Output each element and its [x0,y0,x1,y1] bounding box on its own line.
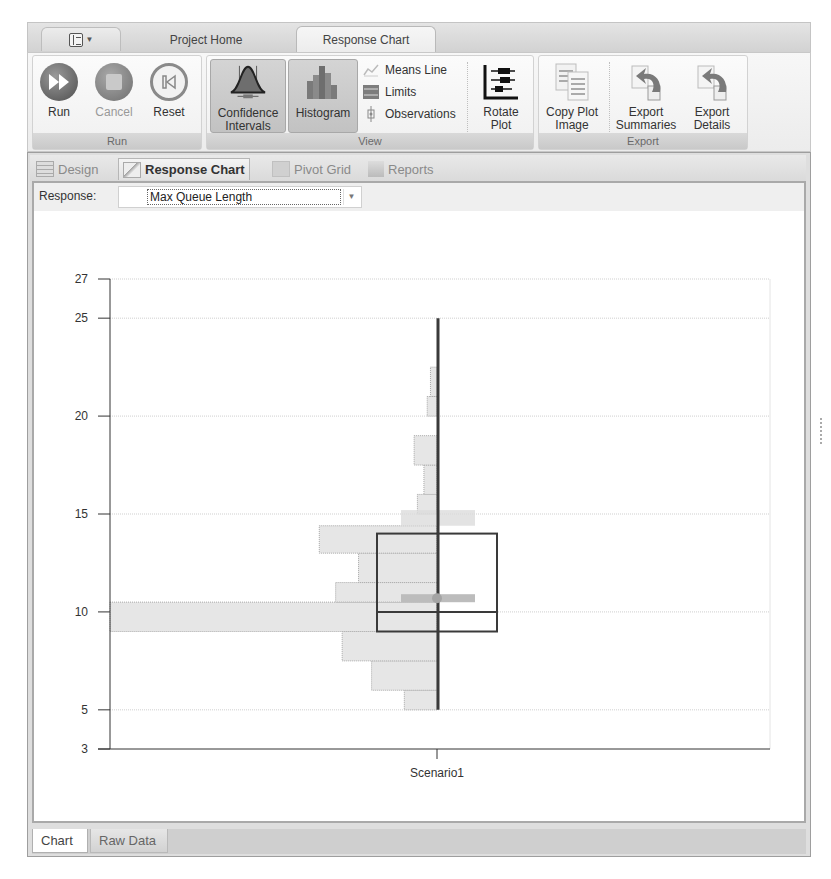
resize-grip[interactable] [820,418,823,444]
run-button[interactable]: Run [37,59,81,133]
chart-panel: Response: Max Queue Length ▼ 35101520252… [32,181,806,823]
histogram-bar [430,367,437,396]
chart-icon [123,162,141,178]
response-dropdown[interactable]: Max Queue Length ▼ [118,186,362,208]
tab-response-chart-label: Response Chart [145,162,245,177]
tab-design-label: Design [58,162,98,177]
limits-icon [363,84,379,100]
x-tick-label: Scenario1 [410,766,464,780]
response-label: Response: [39,189,96,203]
view-group-label: View [207,133,533,149]
tab-pivot-grid[interactable]: Pivot Grid [268,158,355,180]
app-window: ▼ Project Home Response Chart Run Cancel [27,22,811,857]
export-summaries-button[interactable]: Export Summaries [613,59,679,133]
separator [467,62,468,132]
chevron-down-icon: ▼ [86,35,94,44]
bottom-tabs: Chart Raw Data [32,829,806,854]
export-group-label: Export [539,133,747,149]
limits-button[interactable]: Limits [363,82,416,102]
histogram-bar [372,661,437,690]
app-menu-icon [69,33,83,47]
y-tick-label: 20 [75,409,89,423]
reset-label: Reset [153,106,184,119]
means-line-label: Means Line [385,63,447,77]
details-label: Details [694,119,731,132]
tab-project-home[interactable]: Project Home [146,27,266,53]
document-area: Design Response Chart Pivot Grid Reports… [27,152,811,857]
reports-icon [368,161,384,177]
tab-response-chart-doc[interactable]: Response Chart [118,158,250,180]
y-tick-label: 15 [75,507,89,521]
observations-button[interactable]: Observations [363,104,456,124]
reset-button[interactable]: Reset [145,59,193,133]
histogram-bar [404,690,437,710]
image-label: Image [555,119,588,132]
export-summaries-icon [626,62,666,102]
tab-reports-label: Reports [388,162,434,177]
histogram-bar [342,632,437,661]
bell-curve-icon [228,63,268,103]
run-group: Run Cancel Reset Run [32,55,202,150]
run-group-label: Run [33,133,201,149]
tab-design[interactable]: Design [32,158,102,180]
reset-icon [150,63,188,101]
confidence-intervals-button[interactable]: Confidence Intervals [210,59,286,133]
histogram-bar [424,465,437,494]
ribbon: Run Cancel Reset Run [27,52,811,152]
document-tabs: Design Response Chart Pivot Grid Reports [30,155,806,181]
design-icon [36,161,54,177]
limits-label: Limits [385,85,416,99]
histogram-bar [427,397,437,417]
response-selector-row: Response: Max Queue Length ▼ [34,183,804,211]
cancel-icon [95,63,133,101]
summaries-label: Summaries [616,119,677,132]
y-tick-label: 25 [75,311,89,325]
rotate-plot-icon [481,62,521,102]
chart-plot: 351015202527Scenario1 [34,211,804,791]
histogram-bar [359,553,437,582]
means-line-button[interactable]: Means Line [363,60,447,80]
tab-pivot-grid-label: Pivot Grid [294,162,351,177]
export-group: Copy Plot Image Export Summaries [538,55,748,150]
y-tick-label: 27 [75,272,89,286]
histogram-button[interactable]: Histogram [288,59,358,133]
response-chart: 351015202527Scenario1 [34,211,804,791]
tab-reports[interactable]: Reports [364,158,438,180]
rotate-plot-button[interactable]: Rotate Plot [473,59,529,133]
copy-plot-image-button[interactable]: Copy Plot Image [541,59,603,133]
observations-icon [363,106,379,122]
pivot-grid-icon [272,161,290,177]
tab-raw-data[interactable]: Raw Data [90,829,168,853]
separator [609,62,610,132]
view-group: Confidence Intervals Histogram [206,55,534,150]
histogram-bar [110,602,437,631]
plot-label: Plot [491,119,512,132]
chevron-down-icon[interactable]: ▼ [343,189,359,205]
tab-response-chart[interactable]: Response Chart [296,26,436,53]
tab-chart[interactable]: Chart [32,829,88,853]
ribbon-tab-strip: ▼ Project Home Response Chart [27,22,811,52]
histogram-bar [319,526,437,553]
intervals-label: Intervals [225,120,270,133]
observations-label: Observations [385,107,456,121]
histogram-label: Histogram [296,107,351,120]
export-details-icon [692,62,732,102]
y-tick-label: 5 [81,703,88,717]
means-line-icon [363,62,379,78]
export-details-button[interactable]: Export Details [681,59,743,133]
cancel-label: Cancel [95,106,132,119]
y-tick-label: 10 [75,605,89,619]
app-menu-button[interactable]: ▼ [41,27,121,51]
copy-icon [552,62,592,102]
response-value: Max Queue Length [147,189,341,205]
run-icon [40,63,78,101]
cancel-button[interactable]: Cancel [91,59,137,133]
y-tick-label: 3 [81,742,88,756]
run-label: Run [48,106,70,119]
mean-point [432,593,442,603]
histogram-icon [303,63,343,103]
histogram-bar [414,436,437,465]
